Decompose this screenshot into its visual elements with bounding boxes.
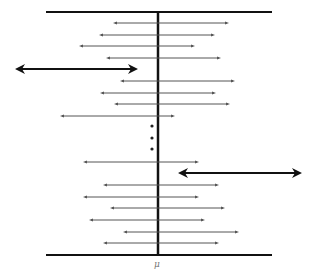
interval-arrow	[83, 195, 199, 198]
interval-arrow	[110, 206, 225, 209]
arrowhead-right-icon	[235, 230, 239, 233]
arrowhead-left-icon	[99, 33, 103, 36]
interval-arrow	[106, 56, 221, 59]
arrowhead-left-icon	[120, 79, 124, 82]
arrowhead-left-icon	[110, 206, 114, 209]
arrowhead-right-icon	[211, 33, 215, 36]
interval-arrow	[83, 160, 199, 163]
interval-arrow	[113, 21, 229, 24]
arrowhead-left-icon	[89, 218, 93, 221]
interval-arrow	[79, 44, 195, 47]
arrowhead-left-icon	[83, 195, 87, 198]
arrowhead-right-icon	[171, 114, 175, 117]
arrowhead-left-icon	[83, 160, 87, 163]
missing-interval-arrow	[15, 64, 138, 74]
arrowhead-left-icon	[79, 44, 83, 47]
arrowhead-right-icon	[201, 218, 205, 221]
arrowhead-right-icon	[231, 79, 235, 82]
arrowhead-left-icon	[113, 21, 117, 24]
interval-arrow	[114, 102, 230, 105]
arrowhead-right-icon	[195, 195, 199, 198]
ellipsis-dot	[150, 147, 153, 150]
interval-arrow	[123, 230, 239, 233]
arrowhead-right-icon	[221, 206, 225, 209]
arrowhead-right-icon	[215, 241, 219, 244]
ellipsis-dot	[150, 136, 153, 139]
arrowhead-left-icon	[103, 241, 107, 244]
arrowhead-right-icon	[212, 91, 216, 94]
arrowhead-right-icon	[191, 44, 195, 47]
mean-label: μ	[154, 259, 160, 269]
arrowhead-right-icon	[225, 21, 229, 24]
arrowhead-right-icon	[217, 56, 221, 59]
arrowhead-right-icon	[226, 102, 230, 105]
arrowhead-right-icon	[195, 160, 199, 163]
arrowhead-right-icon	[215, 183, 219, 186]
arrowhead-left-icon	[100, 91, 104, 94]
interval-arrow	[89, 218, 205, 221]
interval-arrow	[103, 241, 219, 244]
ellipsis-dot	[150, 124, 153, 127]
arrowhead-left-icon	[114, 102, 118, 105]
missing-interval-arrow	[178, 168, 302, 178]
arrowhead-left-icon	[60, 114, 64, 117]
arrowhead-left-icon	[123, 230, 127, 233]
frame-lines	[46, 12, 272, 255]
arrowhead-left-icon	[103, 183, 107, 186]
arrowhead-left-icon	[106, 56, 110, 59]
ellipsis-dots	[150, 124, 153, 150]
confidence-interval-diagram	[0, 0, 316, 280]
interval-arrow	[103, 183, 219, 186]
interval-arrow	[120, 79, 235, 82]
